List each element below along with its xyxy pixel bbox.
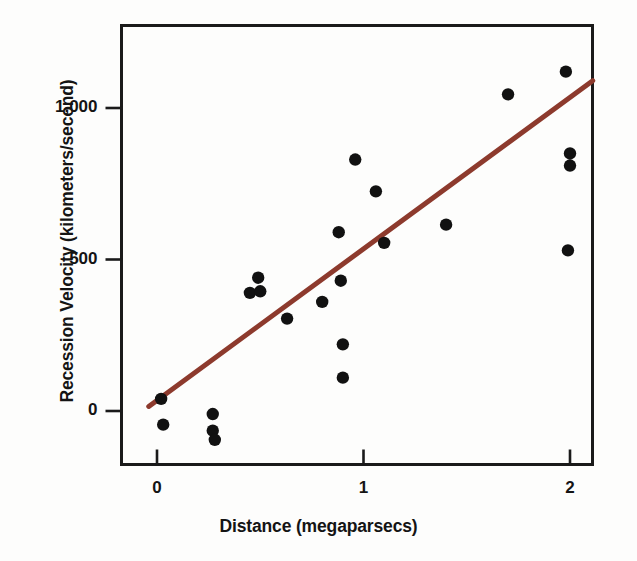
data-point <box>155 393 167 405</box>
data-point <box>502 88 514 100</box>
data-point <box>335 275 347 287</box>
data-point <box>337 371 349 383</box>
x-tick-label: 2 <box>550 478 590 498</box>
data-point <box>281 312 293 324</box>
y-axis-title-wrapper: Recession Velocity (kilometers/second) <box>57 0 83 501</box>
data-point <box>370 185 382 197</box>
data-point <box>207 408 219 420</box>
x-tick-label: 0 <box>137 478 177 498</box>
data-point <box>316 296 328 308</box>
data-point <box>564 147 576 159</box>
data-point <box>349 153 361 165</box>
data-point <box>337 338 349 350</box>
best-fit-line <box>149 81 593 407</box>
x-tick-label: 1 <box>344 478 384 498</box>
regression-line <box>149 81 593 407</box>
data-point <box>209 434 221 446</box>
data-point <box>252 271 264 283</box>
data-point <box>157 418 169 430</box>
x-axis-title: Distance (megaparsecs) <box>0 516 637 537</box>
data-point-series <box>155 65 576 446</box>
data-point <box>378 237 390 249</box>
data-point <box>333 226 345 238</box>
data-point <box>564 159 576 171</box>
data-point <box>562 244 574 256</box>
y-axis-title: Recession Velocity (kilometers/second) <box>57 0 78 501</box>
hubble-diagram-figure: 012 05001,000 Distance (megaparsecs) Rec… <box>0 0 637 561</box>
x-axis-ticks <box>157 450 570 465</box>
data-point <box>440 218 452 230</box>
y-axis-ticks <box>106 108 123 411</box>
data-point <box>254 285 266 297</box>
data-point <box>560 65 572 77</box>
plot-frame <box>122 26 593 465</box>
scatter-plot-canvas <box>0 0 637 561</box>
